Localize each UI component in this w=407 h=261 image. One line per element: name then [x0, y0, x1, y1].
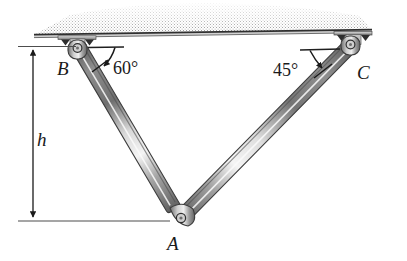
link-ca-body: [174, 41, 355, 225]
link-ca-shadow: [181, 47, 343, 212]
label-point-c: C: [357, 62, 370, 83]
link-ca-head: [341, 36, 360, 55]
pin-b-center: [76, 47, 79, 50]
label-angle-45: 45°: [273, 60, 298, 80]
ceiling-group: [34, 3, 372, 38]
pin-c-center: [349, 43, 352, 46]
pin-a-center: [179, 216, 182, 219]
angle-45-arc-arrow: [310, 51, 322, 69]
linkage-diagram: B C A h 60° 45°: [0, 0, 407, 261]
link-ba-head: [68, 40, 87, 59]
joint-a: [170, 204, 195, 226]
label-point-b: B: [57, 58, 69, 79]
bracket-wedge-c-right: [361, 35, 370, 41]
label-height-h: h: [37, 129, 47, 150]
label-angle-60: 60°: [113, 58, 138, 78]
figure-container: B C A h 60° 45°: [0, 0, 407, 261]
link-ca-highlight: [185, 51, 347, 216]
angle-60-reference-line: [88, 47, 124, 48]
ceiling-hatch-fill: [36, 3, 371, 34]
angle-45-reference-line: [300, 49, 340, 50]
label-point-a: A: [165, 233, 179, 254]
